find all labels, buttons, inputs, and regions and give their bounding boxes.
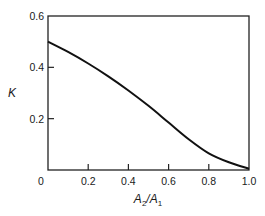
x-tick-label: 0.6 [161, 175, 176, 187]
y-axis-label: K [8, 86, 17, 100]
y-tick-label: 0.2 [29, 113, 44, 125]
x-tick-label: 0.8 [201, 175, 216, 187]
y-axis-tick-labels: 0.20.40.6 [29, 10, 44, 125]
k-curve [48, 42, 249, 169]
x-axis-tick-labels: 00.20.40.60.81.0 [38, 175, 256, 187]
y-tick-label: 0.6 [29, 10, 44, 22]
x-tick-label: 0.2 [81, 175, 96, 187]
plot-frame [48, 16, 249, 170]
y-axis-ticks [48, 67, 54, 118]
x-tick-label: 1.0 [242, 175, 257, 187]
y-tick-label: 0.4 [29, 61, 44, 73]
x-axis-ticks [88, 164, 209, 170]
x-axis-label: A2/A1 [133, 192, 163, 208]
chart: 00.20.40.60.81.0 0.20.40.6 K A2/A1 [0, 0, 265, 216]
x-tick-label: 0.4 [121, 175, 136, 187]
x-tick-label: 0 [38, 175, 44, 187]
